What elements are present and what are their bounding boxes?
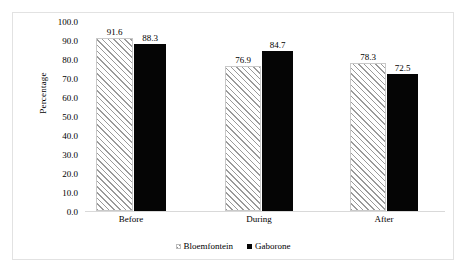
bar-gaborone-after: [387, 74, 418, 211]
plot-area: 91.6 88.3 76.9 84.7 78.3 72.5: [85, 22, 445, 211]
x-category-label-before: Before: [96, 214, 166, 225]
bar-gaborone-during: [262, 51, 293, 211]
y-tick-label: 70.0: [32, 74, 78, 84]
bar-value-gaborone-during: 84.7: [260, 40, 295, 50]
x-axis-baseline: [85, 211, 445, 212]
y-axis-tick-labels: 100.0 90.0 80.0 70.0 60.0 50.0 40.0 30.0…: [28, 0, 78, 230]
y-tick-label: 50.0: [32, 112, 78, 122]
bar-value-bloemfontein-during: 76.9: [225, 55, 261, 65]
bar-value-bloemfontein-before: 91.6: [96, 27, 133, 37]
legend-item-bloemfontein: Bloemfontein: [176, 241, 234, 251]
chart-legend: Bloemfontein Gaborone: [0, 241, 466, 251]
bar-chart-figure: Percentage 100.0 90.0 80.0 70.0 60.0 50.…: [0, 0, 466, 275]
bar-value-bloemfontein-after: 78.3: [350, 52, 386, 62]
y-tick-label: 0.0: [32, 207, 78, 217]
y-tick-label: 10.0: [32, 188, 78, 198]
bar-bloemfontein-during: [225, 66, 261, 211]
y-tick-label: 80.0: [32, 55, 78, 65]
x-category-label-after: After: [349, 214, 419, 225]
y-tick-label: 40.0: [32, 131, 78, 141]
legend-swatch-solid-icon: [247, 244, 252, 249]
x-category-label-during: During: [224, 214, 294, 225]
bar-value-gaborone-after: 72.5: [385, 63, 420, 73]
bar-value-gaborone-before: 88.3: [132, 33, 168, 43]
y-tick-label: 90.0: [32, 36, 78, 46]
y-tick-label: 30.0: [32, 150, 78, 160]
legend-label-gaborone: Gaborone: [255, 241, 291, 251]
legend-swatch-hatched-icon: [176, 244, 181, 249]
y-tick-label: 20.0: [32, 169, 78, 179]
legend-item-gaborone: Gaborone: [247, 241, 291, 251]
legend-label-bloemfontein: Bloemfontein: [184, 241, 234, 251]
y-tick-label: 60.0: [32, 93, 78, 103]
y-tick-label: 100.0: [32, 17, 78, 27]
bar-bloemfontein-after: [350, 63, 386, 211]
bar-bloemfontein-before: [96, 38, 133, 211]
bar-gaborone-before: [134, 44, 166, 211]
